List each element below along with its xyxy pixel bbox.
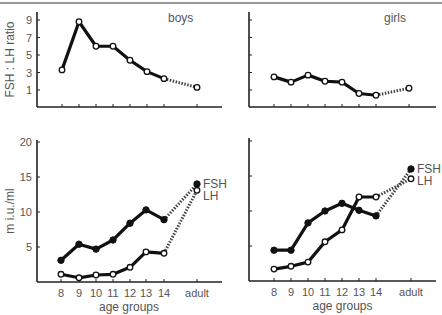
open-marker-icon <box>76 19 82 25</box>
open-marker-icon <box>194 85 200 91</box>
y-tick-label: 9 <box>26 14 32 26</box>
panel-top-right: girls <box>249 11 436 107</box>
open-marker-icon <box>58 272 64 278</box>
x-tick-label: 14 <box>370 286 382 298</box>
x-tick-label: 13 <box>140 287 152 299</box>
open-marker-icon <box>408 176 414 182</box>
y-tick-label: 7 <box>26 32 32 44</box>
open-marker-icon <box>110 272 116 278</box>
open-marker-icon <box>356 91 362 97</box>
legend-lh: LH <box>417 174 432 188</box>
series-dotted-segment <box>164 190 197 253</box>
x-tick-label: 10 <box>90 287 102 299</box>
open-marker-icon <box>93 272 99 278</box>
filled-marker-icon <box>76 241 82 247</box>
open-marker-icon <box>339 79 345 85</box>
open-marker-icon <box>322 78 328 84</box>
x-tick-label: 8 <box>58 287 64 299</box>
open-marker-icon <box>339 227 345 233</box>
y-tick-label: 15 <box>20 171 32 183</box>
open-marker-icon <box>373 92 379 98</box>
open-marker-icon <box>356 194 362 200</box>
x-tick-label: 12 <box>124 287 136 299</box>
panel-bottom-left: 5101520891011121314adultage groupsm i.u.… <box>3 136 227 314</box>
open-marker-icon <box>305 259 311 265</box>
x-tick-label: 14 <box>158 287 170 299</box>
open-marker-icon <box>161 251 167 257</box>
filled-marker-icon <box>127 220 133 226</box>
y-axis-label: m i.u./ml <box>3 188 17 233</box>
panel-top-left: 13579FSH : LH ratioboys <box>3 11 222 107</box>
filled-marker-icon <box>143 207 149 213</box>
x-tick-label: 11 <box>319 286 330 298</box>
open-marker-icon <box>144 69 150 75</box>
x-tick-label: 10 <box>302 286 314 298</box>
y-axis-label: FSH : LH ratio <box>3 21 17 97</box>
open-marker-icon <box>76 275 82 281</box>
filled-marker-icon <box>288 247 294 253</box>
open-marker-icon <box>271 266 277 272</box>
filled-marker-icon <box>408 166 414 172</box>
open-marker-icon <box>373 194 379 200</box>
x-tick-label: 9 <box>76 287 82 299</box>
series-dotted-segment <box>164 79 197 88</box>
open-marker-icon <box>194 188 200 194</box>
open-marker-icon <box>322 239 328 245</box>
chart-canvas: 13579FSH : LH ratioboysgirls510152089101… <box>0 0 442 315</box>
open-marker-icon <box>127 57 133 63</box>
open-marker-icon <box>288 79 294 85</box>
open-marker-icon <box>271 74 277 80</box>
panel-title: boys <box>168 11 193 25</box>
x-tick-label: 12 <box>336 286 348 298</box>
filled-marker-icon <box>373 213 379 219</box>
open-marker-icon <box>406 85 412 91</box>
x-tick-label: 8 <box>271 286 277 298</box>
filled-marker-icon <box>305 220 311 226</box>
open-marker-icon <box>143 249 149 255</box>
open-marker-icon <box>93 43 99 49</box>
filled-marker-icon <box>58 257 64 263</box>
y-tick-label: 20 <box>20 136 32 148</box>
panel-title: girls <box>384 11 406 25</box>
filled-marker-icon <box>322 208 328 214</box>
x-tick-label: 13 <box>353 286 365 298</box>
legend-lh: LH <box>203 189 218 203</box>
open-marker-icon <box>110 43 116 49</box>
y-tick-label: 1 <box>26 84 32 96</box>
x-axis-label: age groups <box>312 299 372 313</box>
series-dotted-segment <box>376 88 409 95</box>
series-dotted-segment <box>376 169 411 216</box>
series-dotted-segment <box>164 184 197 220</box>
filled-marker-icon <box>161 217 167 223</box>
y-tick-label: 10 <box>20 206 32 218</box>
x-tick-label: 11 <box>107 287 118 299</box>
x-tick-label: adult <box>185 287 209 299</box>
y-tick-label: 5 <box>26 49 32 61</box>
open-marker-icon <box>288 264 294 270</box>
hormone-figure: 13579FSH : LH ratioboysgirls510152089101… <box>0 0 442 315</box>
filled-marker-icon <box>110 237 116 243</box>
filled-marker-icon <box>271 247 277 253</box>
y-tick-label: 3 <box>26 67 32 79</box>
open-marker-icon <box>127 265 133 271</box>
filled-marker-icon <box>339 200 345 206</box>
x-tick-label: adult <box>399 286 423 298</box>
filled-marker-icon <box>356 207 362 213</box>
panel-bottom-right: 891011121314adultage groupsFSHLH <box>249 138 441 313</box>
x-tick-label: 9 <box>288 286 294 298</box>
filled-marker-icon <box>194 181 200 187</box>
open-marker-icon <box>161 76 167 82</box>
filled-marker-icon <box>93 246 99 252</box>
y-tick-label: 5 <box>26 241 32 253</box>
x-axis-label: age groups <box>99 300 159 314</box>
open-marker-icon <box>59 67 65 73</box>
open-marker-icon <box>305 72 311 78</box>
